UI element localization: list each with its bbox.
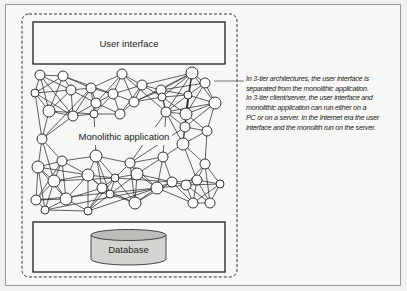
component-node [108,89,118,99]
user-interface-box: User interface [33,22,225,64]
component-node [125,158,135,168]
component-node [180,108,192,120]
annotation-line: In 3-tier architectures, the user interf… [246,74,404,84]
component-node [68,111,78,121]
component-node [192,175,202,185]
component-node [184,91,192,99]
monolithic-application-label-group: Monolithic application [76,127,172,145]
component-node [180,122,190,132]
database-label: Database [108,244,149,255]
component-node [151,182,163,194]
connection-line [35,93,42,139]
component-node [37,134,47,144]
component-node [137,80,147,90]
monolithic-application-label: Monolithic application [79,131,170,142]
component-node [177,138,189,150]
component-node [131,168,143,180]
component-node [129,97,139,107]
component-node [158,152,168,162]
component-node [216,180,224,188]
component-node [43,105,55,117]
component-node [58,71,68,81]
annotation-line: In 3-tier client/server, the user interf… [246,93,404,103]
component-node [200,159,210,169]
component-node [167,177,177,187]
component-node [41,206,49,214]
component-node [60,193,72,205]
component-node [209,97,221,109]
component-node [188,198,198,208]
component-node [111,174,119,182]
annotation-line: monolithic application can run either on… [246,103,404,113]
annotation-text: In 3-tier architectures, the user interf… [246,74,404,132]
user-interface-label: User interface [99,38,158,49]
component-node [117,69,127,79]
annotation-line: interface and the monolith run on the se… [246,123,404,133]
component-node [106,190,114,198]
component-node [181,180,191,190]
component-node [48,175,60,187]
component-node [66,85,76,95]
component-node [86,83,96,93]
database-box: Database [33,222,225,272]
annotation-line: PC or on a server. In the Internet era t… [246,113,404,123]
component-node [97,183,107,193]
component-node [31,89,39,97]
component-node [129,197,141,209]
component-node [90,110,98,118]
component-node [82,169,94,181]
component-node [205,198,215,208]
component-node [32,161,44,173]
component-node [200,78,210,88]
component-node [186,67,198,79]
component-node [84,207,92,215]
component-node [115,109,125,119]
connection-line [45,210,88,211]
component-node [90,150,102,162]
architecture-diagram: User interface Monolithic application Da… [0,0,407,291]
component-node [57,156,67,166]
component-node [158,93,166,101]
component-node [161,107,171,117]
component-node [202,126,212,136]
component-node [91,98,101,108]
annotation-line: separated from the monolithic applicatio… [246,84,404,94]
component-node [35,70,45,80]
component-node [31,195,41,205]
